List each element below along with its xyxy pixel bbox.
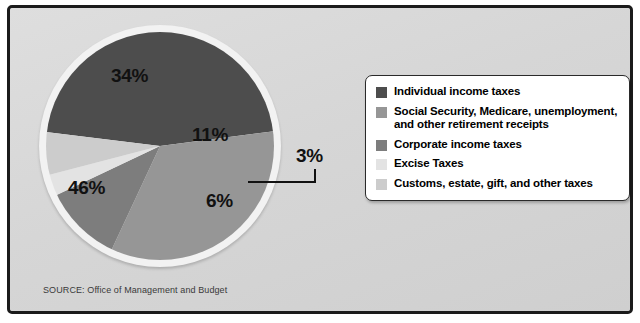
leader-line-icon [247, 168, 325, 186]
slice-label-customs-estate-gift: 6% [206, 190, 233, 212]
legend-item-label: Individual income taxes [394, 85, 520, 99]
legend-item-label: Corporate income taxes [394, 138, 522, 152]
slice-label-corporate-income: 11% [192, 124, 228, 146]
chart-legend: Individual income taxes Social Security,… [365, 75, 630, 201]
pie-svg [46, 32, 274, 260]
legend-item-label: Social Security, Medicare, unemployment,… [394, 105, 619, 132]
legend-item-label: Customs, estate, gift, and other taxes [394, 177, 593, 191]
legend-swatch-icon [376, 87, 387, 98]
pie-slice[interactable] [46, 32, 274, 146]
slice-label-social-security: 34% [111, 65, 148, 87]
legend-item-corporate-income-taxes[interactable]: Corporate income taxes [376, 138, 619, 152]
legend-item-individual-income-taxes[interactable]: Individual income taxes [376, 85, 619, 99]
legend-swatch-icon [376, 140, 387, 151]
legend-swatch-icon [376, 107, 387, 118]
legend-item-label: Excise Taxes [394, 157, 464, 171]
chart-frame: 34% 46% 11% 6% 3% Individual income taxe… [7, 5, 633, 314]
slice-label-excise-taxes: 3% [296, 145, 323, 167]
legend-item-excise-taxes[interactable]: Excise Taxes [376, 157, 619, 171]
legend-item-customs-estate-gift[interactable]: Customs, estate, gift, and other taxes [376, 177, 619, 191]
legend-swatch-icon [376, 179, 387, 190]
pie-slices-group [46, 32, 274, 260]
slice-label-individual-income: 46% [68, 177, 105, 199]
chart-screenshot: 34% 46% 11% 6% 3% Individual income taxe… [0, 0, 640, 323]
pie-chart [39, 25, 281, 267]
legend-item-social-security[interactable]: Social Security, Medicare, unemployment,… [376, 105, 619, 132]
source-note: SOURCE: Office of Management and Budget [43, 285, 227, 295]
chart-canvas: 34% 46% 11% 6% 3% Individual income taxe… [10, 8, 630, 311]
legend-swatch-icon [376, 159, 387, 170]
